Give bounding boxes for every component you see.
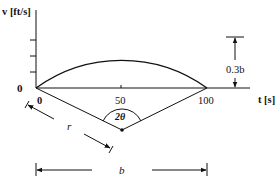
radius-line-left — [36, 88, 122, 130]
arc-center-point — [120, 128, 124, 132]
radius-line-right — [122, 88, 207, 130]
radius-label: r — [67, 120, 72, 132]
y-axis-label: v [ft/s] — [2, 6, 31, 17]
r-dimension-arrow-left — [28, 105, 54, 119]
r-dimension-tick-right — [109, 146, 113, 153]
x-tick-label-50: 50 — [115, 95, 126, 106]
velocity-time-diagram: v [ft/s] 0 0 50 100 t [s] 2θ r 0.3b b — [0, 0, 275, 182]
velocity-arc-curve — [36, 60, 207, 88]
x-axis-label: t [s] — [258, 94, 275, 105]
r-dimension-arrow-right — [84, 134, 110, 148]
r-dimension-tick-left — [25, 101, 29, 108]
x-tick-label-100: 100 — [198, 95, 214, 106]
base-label: b — [119, 164, 125, 176]
origin-label: 0 — [17, 82, 23, 94]
x-tick-label-0: 0 — [37, 95, 42, 106]
angle-label: 2θ — [114, 111, 126, 122]
height-label: 0.3b — [226, 64, 244, 75]
